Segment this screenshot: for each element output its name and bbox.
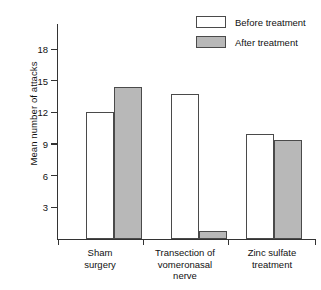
y-axis-tick [51,143,58,144]
y-axis-tick [51,112,58,113]
bar-sham-surgery-before [86,112,114,239]
bar-chart: Mean number of attacks 181512963 Shamsur… [0,0,321,290]
legend-item-after-treatment: After treatment [196,32,306,52]
x-axis-label-line: treatment [227,259,317,271]
x-axis-label-transection-vomeronasal-nerve: Transection ofvomeronasalnerve [140,247,230,282]
bar-zinc-sulfate-treatment-after [274,140,302,239]
y-axis-tick [51,175,58,176]
x-axis-line [57,239,315,240]
legend-item-before-treatment: Before treatment [196,12,306,32]
y-axis-tick [51,207,58,208]
y-axis-tick [51,49,58,50]
x-axis-separator [228,239,229,245]
y-axis-tick-label: 9 [26,139,48,150]
x-axis-label-zinc-sulfate-treatment: Zinc sulfatetreatment [227,247,317,270]
bar-sham-surgery-after [114,87,142,239]
chart-legend: Before treatmentAfter treatment [196,12,306,52]
y-axis-tick-label: 3 [26,202,48,213]
y-axis-tick-label: 15 [26,75,48,86]
legend-swatch-after-treatment [196,36,226,48]
y-axis-tick-label: 6 [26,170,48,181]
x-axis-label-line: vomeronasal [140,259,230,271]
x-axis-separator [143,239,144,245]
x-axis-label-sham-surgery: Shamsurgery [55,247,145,270]
bar-zinc-sulfate-treatment-before [246,134,274,240]
bar-transection-vomeronasal-nerve-before [171,94,199,239]
x-axis-separator [58,239,59,245]
x-axis-label-line: nerve [140,270,230,282]
x-axis-separator [315,239,316,245]
bar-transection-vomeronasal-nerve-after [199,231,227,239]
x-axis-label-line: Zinc sulfate [227,247,317,259]
y-axis-tick [51,80,58,81]
legend-swatch-before-treatment [196,16,226,28]
y-axis-tick-label: 12 [26,107,48,118]
y-axis-tick-label: 18 [26,44,48,55]
plot-area [58,24,315,239]
x-axis-label-line: Sham [55,247,145,259]
legend-label-after-treatment: After treatment [235,37,298,48]
x-axis-label-line: Transection of [140,247,230,259]
x-axis-label-line: surgery [55,259,145,271]
legend-label-before-treatment: Before treatment [235,17,306,28]
